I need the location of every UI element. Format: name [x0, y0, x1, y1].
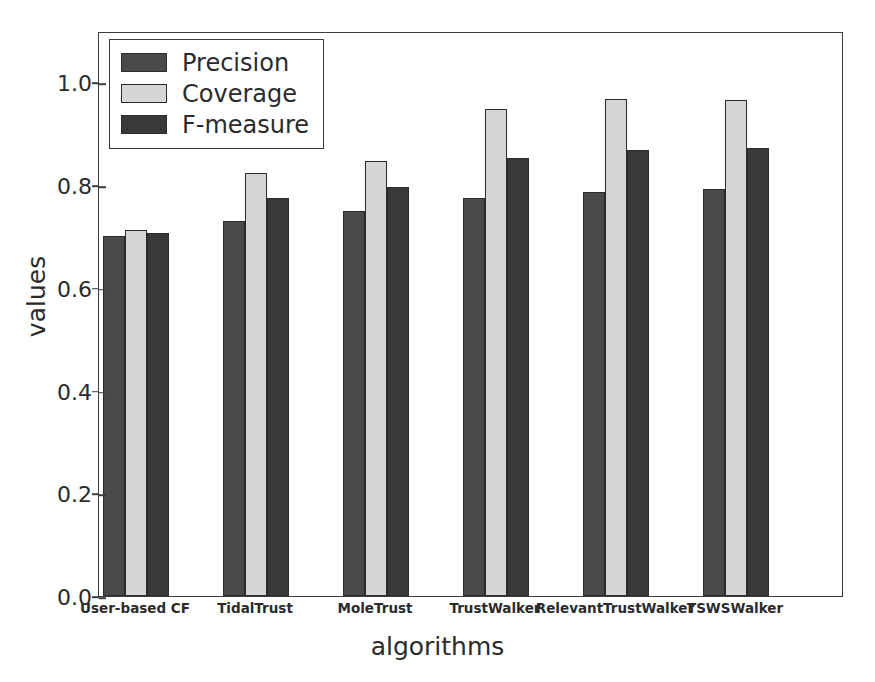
legend-item-f-measure: F-measure	[121, 109, 309, 140]
legend-item-coverage: Coverage	[121, 78, 309, 109]
bar-trustwalker-precision	[463, 198, 485, 596]
bar-tidaltrust-precision	[223, 221, 245, 596]
y-tick-mark-inner	[99, 186, 106, 188]
bar-tswswalker-precision	[703, 189, 725, 596]
y-tick-label: 0.2	[0, 482, 92, 507]
bar-tswswalker-f-measure	[747, 148, 769, 596]
y-tick-label: 1.0	[0, 71, 92, 96]
bar-trustwalker-coverage	[485, 109, 507, 596]
bar-tswswalker-coverage	[725, 100, 747, 596]
bar-tidaltrust-coverage	[245, 173, 267, 596]
y-tick-mark-inner	[99, 392, 106, 394]
y-tick-label: 0.4	[0, 379, 92, 404]
bar-chart-figure: values 0.00.20.40.60.81.0 Precision Cove…	[0, 0, 875, 682]
x-tick-label: TrustWalker	[449, 600, 540, 616]
legend-label-f-measure: F-measure	[182, 113, 309, 137]
x-tick-label: User-based CF	[80, 600, 190, 616]
bar-tidaltrust-f-measure	[267, 198, 289, 596]
x-axis-label: algorithms	[0, 632, 875, 661]
bar-moletrust-precision	[343, 211, 365, 596]
chart-legend: Precision Coverage F-measure	[109, 39, 324, 149]
y-tick-mark-inner	[99, 597, 106, 599]
y-tick-label: 0.8	[0, 174, 92, 199]
bar-moletrust-f-measure	[387, 187, 409, 596]
legend-swatch-precision	[121, 53, 167, 72]
bar-user-based-cf-coverage	[125, 230, 147, 596]
x-tick-label: TSWSWalker	[687, 600, 783, 616]
x-tick-label: MoleTrust	[338, 600, 413, 616]
x-tick-label: TidalTrust	[217, 600, 293, 616]
y-tick-label: 0.0	[0, 585, 92, 610]
legend-label-coverage: Coverage	[182, 82, 297, 106]
bar-relevanttrustwalker-coverage	[605, 99, 627, 596]
y-tick-mark-inner	[99, 84, 106, 86]
plot-area: Precision Coverage F-measure	[98, 32, 843, 597]
y-tick-label: 0.6	[0, 276, 92, 301]
legend-item-precision: Precision	[121, 47, 309, 78]
legend-label-precision: Precision	[182, 51, 289, 75]
bar-user-based-cf-f-measure	[147, 233, 169, 596]
x-tick-label: RelevantTrustWalker	[536, 600, 694, 616]
legend-swatch-coverage	[121, 84, 167, 103]
bar-relevanttrustwalker-precision	[583, 192, 605, 596]
bar-user-based-cf-precision	[103, 236, 125, 596]
y-tick-mark-inner	[99, 494, 106, 496]
bar-relevanttrustwalker-f-measure	[627, 150, 649, 596]
y-tick-mark-inner	[99, 289, 106, 291]
legend-swatch-f-measure	[121, 115, 167, 134]
bar-moletrust-coverage	[365, 161, 387, 596]
bar-trustwalker-f-measure	[507, 158, 529, 596]
